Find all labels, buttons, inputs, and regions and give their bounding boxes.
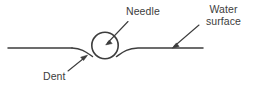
needle-label: Needle bbox=[126, 6, 160, 18]
diagram-canvas: Needle Watersurface Dent bbox=[0, 0, 253, 95]
water-surface-label: Watersurface bbox=[196, 4, 251, 27]
water-surface-label-line2: surface bbox=[206, 15, 241, 27]
dent-label: Dent bbox=[43, 71, 66, 83]
dent-curve-right bbox=[117, 48, 204, 57]
water-surface-label-line1: Water bbox=[209, 3, 237, 15]
dent-curve-left bbox=[72, 48, 93, 57]
water-surface-leader-line bbox=[174, 25, 199, 47]
needle-leader-arrowhead bbox=[106, 40, 113, 45]
